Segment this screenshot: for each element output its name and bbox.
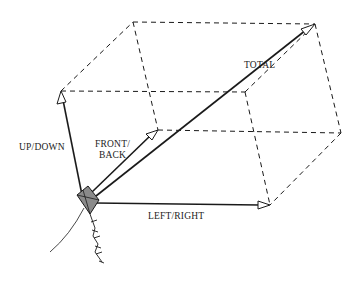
label-front-back: FRONT/ BACK (95, 139, 130, 161)
label-total: TOTAL (244, 60, 275, 71)
total-arrowhead (301, 24, 315, 35)
label-left-right: LEFT/RIGHT (148, 211, 204, 222)
label-up-down: UP/DOWN (19, 142, 65, 153)
vectors (63, 30, 306, 205)
up-arrowhead (57, 91, 66, 104)
right-arrowhead (258, 201, 270, 209)
arrowheads (57, 24, 315, 209)
vector-box-diagram: TOTAL UP/DOWN FRONT/ BACK LEFT/RIGHT (0, 0, 359, 286)
label-front-back-line2: BACK (95, 150, 130, 161)
kite-icon (50, 186, 104, 263)
label-front-back-line1: FRONT/ (95, 139, 130, 150)
